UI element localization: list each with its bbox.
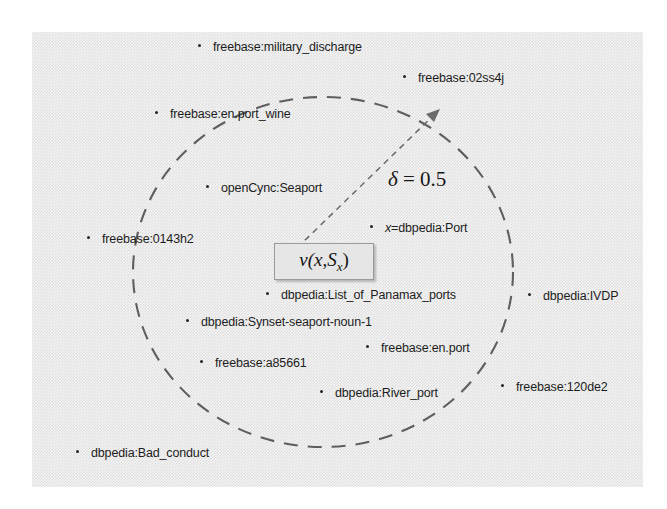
- node-label: openCync:Seaport: [221, 181, 322, 195]
- node-en-port-wine: freebase:en.port_wine: [155, 106, 291, 121]
- node-bullet-icon: [403, 75, 406, 78]
- node-bullet-icon: [198, 44, 201, 47]
- node-dbpedia-bad-conduct: dbpedia:Bad_conduct: [76, 445, 209, 460]
- node-bullet-icon: [366, 345, 369, 348]
- node-label: freebase:en.port: [381, 341, 470, 355]
- node-dbpedia-port: x=dbpedia:Port: [370, 220, 467, 235]
- radius-arrow-head: [426, 109, 440, 122]
- node-label: freebase:0143h2: [102, 232, 194, 246]
- node-bullet-icon: [320, 390, 323, 393]
- node-label: freebase:military_discharge: [213, 40, 362, 54]
- node-label: dbpedia:River_port: [335, 386, 438, 400]
- node-freebase-120de2: freebase:120de2: [501, 379, 608, 394]
- node-bullet-icon: [206, 185, 209, 188]
- delta-value: 0.5: [420, 167, 446, 191]
- center-formula-box: v(x,Sx): [274, 243, 374, 280]
- node-bullet-icon: [200, 360, 203, 363]
- node-label: =dbpedia:Port: [391, 221, 467, 235]
- node-dbpedia-ivdp: dbpedia:IVDP: [528, 288, 618, 303]
- formula-prefix: v(: [299, 249, 314, 270]
- node-label: freebase:en.port_wine: [170, 107, 291, 121]
- node-dbpedia-river-port: dbpedia:River_port: [320, 385, 438, 400]
- node-bullet-icon: [186, 319, 189, 322]
- node-bullet-icon: [87, 236, 90, 239]
- formula-set: S: [327, 249, 337, 270]
- node-label: dbpedia:IVDP: [543, 289, 618, 303]
- node-label: dbpedia:Synset-seaport-noun-1: [201, 315, 372, 329]
- node-freebase-02ss4j: freebase:02ss4j: [403, 70, 504, 85]
- node-label: dbpedia:Bad_conduct: [91, 446, 209, 460]
- delta-equals: =: [398, 167, 420, 191]
- node-bullet-icon: [370, 225, 373, 228]
- node-bullet-icon: [528, 293, 531, 296]
- node-bullet-icon: [155, 111, 158, 114]
- node-label: freebase:120de2: [516, 380, 608, 394]
- node-bullet-icon: [266, 292, 269, 295]
- node-label: dbpedia:List_of_Panamax_ports: [281, 288, 456, 302]
- node-label: freebase:02ss4j: [418, 71, 504, 85]
- figure-canvas: δ = 0.5 v(x,Sx) freebase:military_discha…: [0, 0, 667, 509]
- node-bullet-icon: [76, 450, 79, 453]
- node-freebase-a85661: freebase:a85661: [200, 355, 307, 370]
- node-freebase-en-port: freebase:en.port: [366, 340, 470, 355]
- delta-symbol: δ: [388, 167, 398, 191]
- node-freebase-0143h2: freebase:0143h2: [87, 231, 194, 246]
- delta-radius-label: δ = 0.5: [388, 167, 446, 192]
- node-bullet-icon: [501, 384, 504, 387]
- node-military-discharge: freebase:military_discharge: [198, 39, 362, 54]
- formula-suffix: ): [342, 249, 348, 270]
- center-formula-text: v(x,Sx): [299, 249, 349, 275]
- node-synset-seaport-noun-1: dbpedia:Synset-seaport-noun-1: [186, 314, 372, 329]
- node-label: freebase:a85661: [215, 356, 307, 370]
- node-list-of-panamax-ports: dbpedia:List_of_Panamax_ports: [266, 287, 456, 302]
- node-opencyc-seaport: openCync:Seaport: [206, 180, 322, 195]
